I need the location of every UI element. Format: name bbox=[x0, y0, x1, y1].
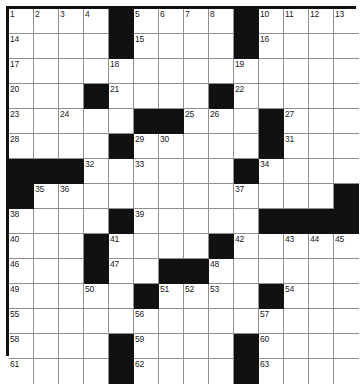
crossword-cell[interactable]: 3 bbox=[59, 9, 84, 34]
crossword-cell[interactable] bbox=[184, 59, 209, 84]
crossword-cell[interactable] bbox=[209, 359, 234, 384]
crossword-cell[interactable] bbox=[284, 334, 309, 359]
crossword-cell[interactable] bbox=[159, 184, 184, 209]
crossword-cell[interactable] bbox=[309, 359, 334, 384]
crossword-cell[interactable] bbox=[59, 259, 84, 284]
crossword-cell[interactable] bbox=[34, 334, 59, 359]
crossword-cell[interactable]: 51 bbox=[159, 284, 184, 309]
crossword-cell[interactable]: 12 bbox=[309, 9, 334, 34]
crossword-cell[interactable] bbox=[109, 109, 134, 134]
crossword-cell[interactable] bbox=[284, 309, 309, 334]
crossword-cell[interactable]: 58 bbox=[9, 334, 34, 359]
crossword-cell[interactable] bbox=[184, 159, 209, 184]
crossword-cell[interactable]: 16 bbox=[259, 34, 284, 59]
crossword-cell[interactable] bbox=[334, 359, 359, 384]
crossword-cell[interactable] bbox=[184, 209, 209, 234]
crossword-cell[interactable] bbox=[184, 84, 209, 109]
crossword-cell[interactable] bbox=[34, 209, 59, 234]
crossword-cell[interactable] bbox=[309, 84, 334, 109]
crossword-cell[interactable]: 56 bbox=[134, 309, 159, 334]
crossword-cell[interactable] bbox=[234, 259, 259, 284]
crossword-cell[interactable] bbox=[309, 134, 334, 159]
crossword-cell[interactable] bbox=[309, 309, 334, 334]
crossword-cell[interactable] bbox=[34, 284, 59, 309]
crossword-cell[interactable] bbox=[34, 134, 59, 159]
crossword-cell[interactable]: 22 bbox=[234, 84, 259, 109]
crossword-cell[interactable] bbox=[209, 134, 234, 159]
crossword-cell[interactable]: 52 bbox=[184, 284, 209, 309]
crossword-cell[interactable] bbox=[284, 259, 309, 284]
crossword-cell[interactable]: 40 bbox=[9, 234, 34, 259]
crossword-cell[interactable] bbox=[84, 59, 109, 84]
crossword-cell[interactable]: 50 bbox=[84, 284, 109, 309]
crossword-cell[interactable] bbox=[209, 334, 234, 359]
crossword-cell[interactable]: 41 bbox=[109, 234, 134, 259]
crossword-cell[interactable] bbox=[309, 159, 334, 184]
crossword-cell[interactable] bbox=[34, 84, 59, 109]
crossword-cell[interactable]: 45 bbox=[334, 234, 359, 259]
crossword-cell[interactable] bbox=[159, 209, 184, 234]
crossword-cell[interactable] bbox=[134, 84, 159, 109]
crossword-cell[interactable]: 8 bbox=[209, 9, 234, 34]
crossword-cell[interactable]: 11 bbox=[284, 9, 309, 34]
crossword-cell[interactable]: 33 bbox=[134, 159, 159, 184]
crossword-cell[interactable] bbox=[84, 34, 109, 59]
crossword-cell[interactable] bbox=[259, 84, 284, 109]
crossword-cell[interactable] bbox=[59, 209, 84, 234]
crossword-cell[interactable]: 10 bbox=[259, 9, 284, 34]
crossword-cell[interactable] bbox=[259, 59, 284, 84]
crossword-cell[interactable] bbox=[34, 359, 59, 384]
crossword-cell[interactable]: 44 bbox=[309, 234, 334, 259]
crossword-cell[interactable] bbox=[134, 234, 159, 259]
crossword-cell[interactable]: 23 bbox=[9, 109, 34, 134]
crossword-cell[interactable]: 55 bbox=[9, 309, 34, 334]
crossword-cell[interactable]: 2 bbox=[34, 9, 59, 34]
crossword-cell[interactable] bbox=[209, 59, 234, 84]
crossword-cell[interactable]: 14 bbox=[9, 34, 34, 59]
crossword-grid[interactable]: 1234567810111213141516171819202122232425… bbox=[6, 6, 356, 356]
crossword-cell[interactable] bbox=[84, 359, 109, 384]
crossword-cell[interactable] bbox=[59, 84, 84, 109]
crossword-cell[interactable] bbox=[34, 109, 59, 134]
crossword-cell[interactable] bbox=[59, 284, 84, 309]
crossword-cell[interactable] bbox=[259, 184, 284, 209]
crossword-cell[interactable] bbox=[334, 134, 359, 159]
crossword-cell[interactable]: 39 bbox=[134, 209, 159, 234]
crossword-cell[interactable] bbox=[184, 334, 209, 359]
crossword-cell[interactable] bbox=[159, 359, 184, 384]
crossword-cell[interactable] bbox=[334, 284, 359, 309]
crossword-cell[interactable]: 20 bbox=[9, 84, 34, 109]
crossword-cell[interactable] bbox=[334, 309, 359, 334]
crossword-cell[interactable] bbox=[209, 209, 234, 234]
crossword-cell[interactable] bbox=[159, 334, 184, 359]
crossword-cell[interactable]: 30 bbox=[159, 134, 184, 159]
crossword-cell[interactable] bbox=[59, 359, 84, 384]
crossword-cell[interactable] bbox=[184, 184, 209, 209]
crossword-cell[interactable] bbox=[334, 159, 359, 184]
crossword-cell[interactable] bbox=[159, 234, 184, 259]
crossword-cell[interactable]: 37 bbox=[234, 184, 259, 209]
crossword-cell[interactable]: 60 bbox=[259, 334, 284, 359]
crossword-cell[interactable]: 26 bbox=[209, 109, 234, 134]
crossword-cell[interactable] bbox=[309, 259, 334, 284]
crossword-cell[interactable] bbox=[134, 59, 159, 84]
crossword-cell[interactable] bbox=[34, 34, 59, 59]
crossword-cell[interactable]: 47 bbox=[109, 259, 134, 284]
crossword-cell[interactable] bbox=[284, 84, 309, 109]
crossword-cell[interactable] bbox=[234, 209, 259, 234]
crossword-cell[interactable] bbox=[209, 309, 234, 334]
crossword-cell[interactable] bbox=[284, 59, 309, 84]
crossword-cell[interactable] bbox=[334, 59, 359, 84]
crossword-cell[interactable]: 49 bbox=[9, 284, 34, 309]
crossword-cell[interactable]: 27 bbox=[284, 109, 309, 134]
crossword-cell[interactable]: 59 bbox=[134, 334, 159, 359]
crossword-cell[interactable] bbox=[84, 184, 109, 209]
crossword-cell[interactable]: 34 bbox=[259, 159, 284, 184]
crossword-cell[interactable] bbox=[159, 159, 184, 184]
crossword-cell[interactable] bbox=[159, 309, 184, 334]
crossword-cell[interactable] bbox=[309, 109, 334, 134]
crossword-cell[interactable] bbox=[334, 84, 359, 109]
crossword-cell[interactable] bbox=[34, 259, 59, 284]
crossword-cell[interactable]: 13 bbox=[334, 9, 359, 34]
crossword-cell[interactable]: 21 bbox=[109, 84, 134, 109]
